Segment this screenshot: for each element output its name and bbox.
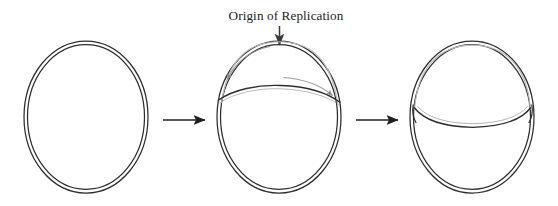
- dna-inner-strand: [414, 45, 531, 190]
- dna-inner-strand: [221, 45, 338, 190]
- replication-figure: Origin of Replication: [0, 0, 558, 206]
- stage-1-unreplicated-circle: [24, 41, 148, 193]
- replication-bubble-chord: [414, 108, 531, 128]
- new-daughter-strand: [415, 45, 531, 109]
- dna-outer-strand: [24, 41, 148, 193]
- dna-inner-strand: [28, 45, 145, 190]
- stage-3-expanded-replication-bubble: [410, 41, 534, 193]
- dna-outer-strand: [217, 41, 341, 193]
- stage-2-early-replication-bubble: [217, 41, 341, 193]
- figure-canvas: Origin of Replication: [0, 0, 558, 206]
- replication-fork-arrow-left: [228, 47, 270, 80]
- origin-of-replication-label: Origin of Replication: [229, 8, 344, 23]
